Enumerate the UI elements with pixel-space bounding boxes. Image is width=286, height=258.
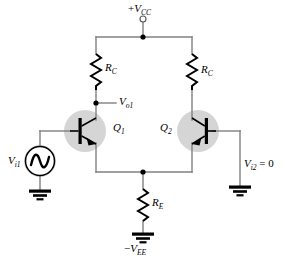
label-input-right: Vi2 = 0 xyxy=(244,158,274,172)
emitter-rail-junction-dot xyxy=(140,169,145,174)
supply-negative-symbol: V xyxy=(130,242,137,254)
vo1-junction-dot xyxy=(93,100,98,105)
q1-base-bar xyxy=(79,118,82,144)
rc-right-subscript: C xyxy=(208,69,213,78)
q1-symbol: Q xyxy=(113,121,121,133)
rc-right-resistor-icon xyxy=(187,54,197,90)
label-q2: Q2 xyxy=(160,122,172,136)
output-left-symbol: V xyxy=(119,95,126,107)
label-rc-right: RC xyxy=(201,64,213,78)
circuit-schematic-svg xyxy=(0,0,286,258)
rc-left-subscript: C xyxy=(112,67,117,76)
label-supply-negative: −VEE xyxy=(124,243,146,257)
ground-symbol-group xyxy=(29,186,251,244)
supply-positive-v: V xyxy=(134,2,141,14)
vcc-rail-junction-dot xyxy=(140,34,145,39)
rc-left-symbol: R xyxy=(105,61,112,73)
supply-negative-subscript: EE xyxy=(137,248,146,257)
re-symbol: R xyxy=(152,196,159,208)
source-left-subscript: i1 xyxy=(15,160,21,169)
q2-symbol: Q xyxy=(160,121,168,133)
re-resistor-icon xyxy=(138,189,148,221)
q2-subscript: 2 xyxy=(168,127,172,136)
ground-left-icon xyxy=(29,190,51,201)
rc-right-symbol: R xyxy=(201,63,208,75)
re-subscript: E xyxy=(159,202,164,211)
ground-right-icon xyxy=(229,186,251,197)
output-left-subscript: o1 xyxy=(126,101,134,110)
label-re: RE xyxy=(152,197,163,211)
q2-base-bar xyxy=(205,118,208,144)
label-rc-left: RC xyxy=(105,62,117,76)
input-right-symbol: V xyxy=(244,157,251,169)
q1-subscript: 1 xyxy=(121,127,125,136)
label-source-left: Vi1 xyxy=(8,155,21,169)
label-output-left: Vo1 xyxy=(119,96,133,110)
circuit-diagram-figure: +VCC RC RC Vo1 Q1 Q2 Vi1 Vi2 = 0 RE −VEE xyxy=(0,0,286,258)
label-supply-positive: +VCC xyxy=(128,3,151,17)
label-q1: Q1 xyxy=(113,122,125,136)
input-right-value: = 0 xyxy=(257,157,274,169)
source-left-symbol: V xyxy=(8,154,15,166)
rc-left-resistor-icon xyxy=(91,54,101,90)
vi1-ac-source-icon xyxy=(26,147,55,176)
supply-positive-subscript: CC xyxy=(141,8,151,17)
